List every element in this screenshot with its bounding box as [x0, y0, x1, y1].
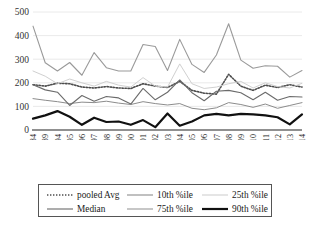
x-tick-label: 2014 [298, 134, 307, 140]
x-tick-label: 1999 [115, 134, 124, 140]
y-tick-label: 200 [15, 78, 30, 88]
legend-label-3: Median [77, 204, 106, 214]
legend-label-4: 75th %ile [157, 204, 193, 214]
x-tick-label: 2002 [151, 134, 160, 140]
x-tick-label: 2008 [225, 134, 234, 140]
series-line-5 [33, 111, 302, 127]
x-axis-tick-labels: 1980–841985–8919941995199619971998199920… [29, 134, 307, 140]
series-lines [33, 24, 302, 127]
x-tick-label: 1995 [66, 134, 75, 140]
x-tick-label: 1996 [78, 134, 87, 140]
x-tick-label: 1998 [103, 134, 112, 140]
legend-label-1: 10th %ile [157, 190, 193, 200]
legend-svg: pooled Avg10th %ile25th %ileMedian75th %… [39, 185, 271, 216]
legend-label-0: pooled Avg [77, 190, 120, 200]
x-tick-label: 1985–89 [41, 134, 50, 140]
legend-label-5: 90th %ile [232, 204, 268, 214]
x-tick-label: 2000 [127, 134, 136, 140]
x-tick-label: 2007 [213, 134, 222, 140]
x-tick-label: 2004 [176, 134, 185, 140]
x-tick-label: 2006 [200, 134, 209, 140]
series-line-4 [33, 24, 302, 77]
y-axis-tick-labels: 0100200300400500 [15, 7, 30, 135]
x-tick-label: 2001 [139, 134, 148, 140]
y-tick-label: 100 [15, 102, 30, 112]
x-tick-label: 2009 [237, 134, 246, 140]
chart-legend: pooled Avg10th %ile25th %ileMedian75th %… [38, 184, 272, 217]
x-tick-label: 2013 [286, 134, 295, 140]
legend-label-2: 25th %ile [232, 190, 268, 200]
y-tick-label: 300 [15, 55, 30, 65]
chart-figure: 0100200300400500 1980–841985–89199419951… [0, 0, 311, 227]
plot-area: 0100200300400500 1980–841985–89199419951… [0, 0, 311, 140]
x-tick-label: 2010 [249, 134, 258, 140]
y-tick-label: 400 [15, 31, 30, 41]
series-line-3 [33, 80, 302, 105]
x-tick-label: 2005 [188, 134, 197, 140]
y-tick-label: 500 [15, 7, 30, 17]
x-tick-label: 1994 [54, 134, 63, 140]
x-tick-label: 2012 [274, 134, 283, 140]
x-tick-label: 2003 [164, 134, 173, 140]
line-chart-svg: 0100200300400500 1980–841985–89199419951… [0, 0, 311, 140]
y-tick-label: 0 [24, 125, 29, 135]
x-tick-label: 1980–84 [29, 134, 38, 140]
series-line-1 [33, 99, 302, 110]
x-tick-label: 1997 [90, 134, 99, 140]
x-tick-label: 2011 [262, 134, 271, 140]
